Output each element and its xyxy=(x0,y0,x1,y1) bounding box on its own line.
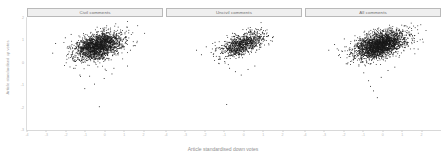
x-tick-label: -3 xyxy=(323,133,326,137)
x-tick-mark xyxy=(85,130,86,132)
x-tick-label: 0 xyxy=(382,133,384,137)
x-tick-mark xyxy=(46,130,47,132)
facet-panel: Uncivil comments xyxy=(166,8,302,130)
scatter-points xyxy=(305,17,441,130)
x-tick-mark xyxy=(382,130,383,132)
panel-strip: Uncivil comments xyxy=(166,8,302,17)
y-tick-label: -2 xyxy=(21,106,24,110)
x-tick-label: 1 xyxy=(401,133,403,137)
x-tick-mark xyxy=(143,130,144,132)
panel-strip: All comments xyxy=(305,8,441,17)
x-tick-label: -1 xyxy=(362,133,365,137)
x-tick-mark xyxy=(263,130,264,132)
x-tick-mark xyxy=(305,130,306,132)
y-tick-label: 1 xyxy=(22,38,24,42)
y-axis-ticks: -3-2-1012 xyxy=(13,18,26,130)
scatter-points xyxy=(166,17,302,130)
y-tick-label: 0 xyxy=(22,61,24,65)
x-tick-mark xyxy=(421,130,422,132)
x-tick-mark xyxy=(27,130,28,132)
y-tick-label: -1 xyxy=(21,83,24,87)
facet-panel: All comments xyxy=(305,8,441,130)
panel-strip: Civil comments xyxy=(27,8,163,17)
panel-strip-label: All comments xyxy=(359,10,387,15)
y-tick-label: -3 xyxy=(21,128,24,132)
x-tick-label: -3 xyxy=(184,133,187,137)
facet-panels: Civil commentsUncivil commentsAll commen… xyxy=(27,8,441,130)
x-tick-mark xyxy=(224,130,225,132)
panel-plot-area xyxy=(27,17,163,130)
x-tick-label: -1 xyxy=(223,133,226,137)
x-tick-label: 0 xyxy=(104,133,106,137)
x-tick-label: -2 xyxy=(342,133,345,137)
x-tick-label: 1 xyxy=(262,133,264,137)
x-tick-label: 2 xyxy=(421,133,423,137)
x-tick-label: -3 xyxy=(45,133,48,137)
x-tick-label: -2 xyxy=(203,133,206,137)
x-tick-label: -4 xyxy=(303,133,306,137)
y-tick-label: 2 xyxy=(22,16,24,20)
x-tick-mark xyxy=(282,130,283,132)
y-axis-label-text: Article standardised up votes xyxy=(5,40,10,94)
x-tick-mark xyxy=(363,130,364,132)
x-tick-mark xyxy=(324,130,325,132)
x-tick-mark xyxy=(65,130,66,132)
x-tick-label: -4 xyxy=(25,133,28,137)
x-tick-label: 2 xyxy=(282,133,284,137)
x-tick-label: -1 xyxy=(84,133,87,137)
x-tick-mark xyxy=(343,130,344,132)
x-axis-label: Article standardised down votes xyxy=(0,146,446,152)
panel-plot-area xyxy=(305,17,441,130)
x-tick-mark xyxy=(104,130,105,132)
panel-strip-label: Civil comments xyxy=(79,10,110,15)
x-axis-ticks: -4-3-2-1012-4-3-2-1012-4-3-2-1012 xyxy=(27,130,441,142)
panel-plot-area xyxy=(166,17,302,130)
x-tick-mark xyxy=(402,130,403,132)
scatter-plot-figure: Article standardised up votes -3-2-1012 … xyxy=(0,0,446,162)
x-tick-label: 0 xyxy=(243,133,245,137)
scatter-points xyxy=(27,17,163,130)
x-tick-label: -2 xyxy=(64,133,67,137)
x-tick-mark xyxy=(204,130,205,132)
x-tick-mark xyxy=(243,130,244,132)
facet-panel: Civil comments xyxy=(27,8,163,130)
x-tick-label: 2 xyxy=(143,133,145,137)
y-axis-label: Article standardised up votes xyxy=(0,0,14,134)
x-tick-mark xyxy=(124,130,125,132)
x-tick-label: -4 xyxy=(164,133,167,137)
panel-strip-label: Uncivil comments xyxy=(216,10,252,15)
x-tick-label: 1 xyxy=(123,133,125,137)
x-tick-mark xyxy=(185,130,186,132)
x-tick-mark xyxy=(166,130,167,132)
